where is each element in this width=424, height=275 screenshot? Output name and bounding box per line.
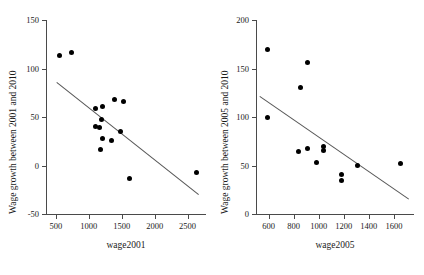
x-tick-label: 1000 <box>80 222 97 231</box>
y-tick <box>42 20 46 21</box>
data-point <box>398 161 403 166</box>
y-tick-label: 200 <box>216 16 249 25</box>
x-tick-label: 1400 <box>360 222 377 231</box>
x-axis-title: wage2005 <box>315 240 354 250</box>
y-tick-label: 150 <box>6 16 39 25</box>
y-axis-title: Wage growth between 2005 and 2010 <box>220 70 230 214</box>
data-point <box>100 136 105 141</box>
x-axis-title: wage2001 <box>106 240 145 250</box>
data-point <box>265 115 270 120</box>
y-axis-title: Wage growth between 2001 and 2010 <box>8 70 18 214</box>
data-point <box>109 138 114 143</box>
y-tick <box>252 69 256 70</box>
x-tick <box>344 215 345 219</box>
data-point <box>296 149 301 154</box>
y-axis-line <box>256 20 257 214</box>
panel-wage2001: -500501001505001000150020002500wage2001W… <box>0 0 212 275</box>
y-tick <box>252 20 256 21</box>
x-tick <box>122 215 123 219</box>
x-tick-label: 1500 <box>113 222 130 231</box>
x-tick <box>269 215 270 219</box>
x-axis-line <box>46 214 206 215</box>
x-tick <box>319 215 320 219</box>
x-tick <box>188 215 189 219</box>
data-point <box>118 129 123 134</box>
x-tick <box>155 215 156 219</box>
panel-wage2005: 0501001502006008001000120014001600wage20… <box>212 0 424 275</box>
data-point <box>100 104 105 109</box>
data-point <box>57 53 62 58</box>
figure-scatter-panels: -500501001505001000150020002500wage2001W… <box>0 0 424 275</box>
x-tick-label: 600 <box>262 222 275 231</box>
plot-area-wage2001: -500501001505001000150020002500wage2001W… <box>46 20 206 214</box>
x-tick-label: 2000 <box>146 222 163 231</box>
data-point <box>305 60 310 65</box>
x-tick-label: 1000 <box>310 222 327 231</box>
plot-area-wage2005: 0501001502006008001000120014001600wage20… <box>256 20 414 214</box>
y-tick <box>252 117 256 118</box>
x-tick <box>369 215 370 219</box>
y-tick <box>252 166 256 167</box>
y-tick <box>42 117 46 118</box>
data-point <box>314 160 319 165</box>
data-point <box>305 146 310 151</box>
data-point <box>298 85 303 90</box>
x-tick-label: 1600 <box>385 222 402 231</box>
data-point <box>127 176 132 181</box>
x-tick <box>89 215 90 219</box>
x-tick <box>394 215 395 219</box>
data-point <box>339 178 344 183</box>
x-tick <box>56 215 57 219</box>
x-tick-label: 1200 <box>335 222 352 231</box>
data-point <box>355 163 360 168</box>
y-tick <box>42 166 46 167</box>
data-point <box>339 172 344 177</box>
x-tick-label: 500 <box>50 222 63 231</box>
y-tick <box>42 214 46 215</box>
x-tick-label: 2500 <box>179 222 196 231</box>
data-point <box>97 125 102 130</box>
x-tick-label: 800 <box>287 222 300 231</box>
x-axis-line <box>256 214 414 215</box>
y-tick <box>42 69 46 70</box>
data-point <box>194 170 199 175</box>
data-point <box>93 106 98 111</box>
data-point <box>265 47 270 52</box>
data-point <box>121 99 126 104</box>
data-point <box>321 148 326 153</box>
data-point <box>69 50 74 55</box>
data-point <box>98 147 103 152</box>
data-point <box>99 117 104 122</box>
y-tick <box>252 214 256 215</box>
data-point <box>112 97 117 102</box>
x-tick <box>294 215 295 219</box>
y-axis-line <box>46 20 47 214</box>
trend-line <box>259 96 409 200</box>
